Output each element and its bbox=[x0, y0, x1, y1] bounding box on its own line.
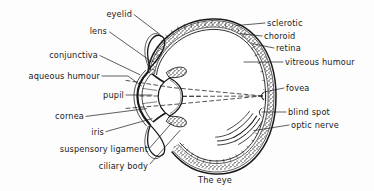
label-eyelid: eyelid bbox=[106, 10, 132, 18]
label-ciliary-body: ciliary body bbox=[99, 162, 148, 170]
label-blind-spot: blind spot bbox=[288, 108, 330, 116]
leader-conjunctiva bbox=[100, 56, 140, 75]
label-lens: lens bbox=[90, 27, 107, 35]
label-conjunctiva: conjunctiva bbox=[49, 51, 98, 59]
figure-caption: The eye bbox=[198, 175, 232, 185]
eyelid-lower bbox=[145, 123, 165, 158]
label-cornea: cornea bbox=[55, 112, 84, 120]
eye-diagram-figure: eyelid lens conjunctiva aqueous humour p… bbox=[0, 0, 374, 191]
label-suspensory-ligament: suspensory ligament bbox=[60, 145, 148, 153]
leader-lens bbox=[110, 32, 150, 61]
label-fovea: fovea bbox=[286, 84, 310, 92]
label-iris: iris bbox=[91, 128, 104, 136]
label-pupil: pupil bbox=[103, 91, 124, 99]
label-optic-nerve: optic nerve bbox=[291, 121, 339, 129]
label-vitreous-humour: vitreous humour bbox=[285, 58, 355, 66]
label-aqueous-humour: aqueous humour bbox=[28, 72, 100, 80]
eye-cross-section-drawing bbox=[0, 0, 374, 191]
leader-suspensory-ligament bbox=[150, 123, 172, 148]
label-retina: retina bbox=[276, 44, 301, 52]
leader-iris bbox=[106, 119, 152, 132]
leader-eyelid bbox=[134, 15, 160, 35]
label-sclerotic: sclerotic bbox=[267, 19, 303, 27]
label-choroid: choroid bbox=[264, 32, 295, 40]
